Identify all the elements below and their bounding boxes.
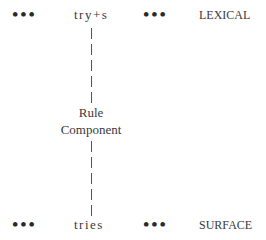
rule-component-label-line2: Component xyxy=(31,122,151,138)
lexical-form: try+s xyxy=(74,7,108,23)
bottom-left-ellipsis: ••• xyxy=(11,217,36,232)
bottom-right-ellipsis: ••• xyxy=(142,217,167,232)
surface-level-label: SURFACE xyxy=(199,218,252,233)
top-left-ellipsis: ••• xyxy=(11,7,36,22)
lexical-level-label: LEXICAL xyxy=(199,8,250,23)
surface-form: tries xyxy=(74,217,104,233)
rule-component-label-line1: Rule xyxy=(31,105,151,121)
top-right-ellipsis: ••• xyxy=(142,7,167,22)
